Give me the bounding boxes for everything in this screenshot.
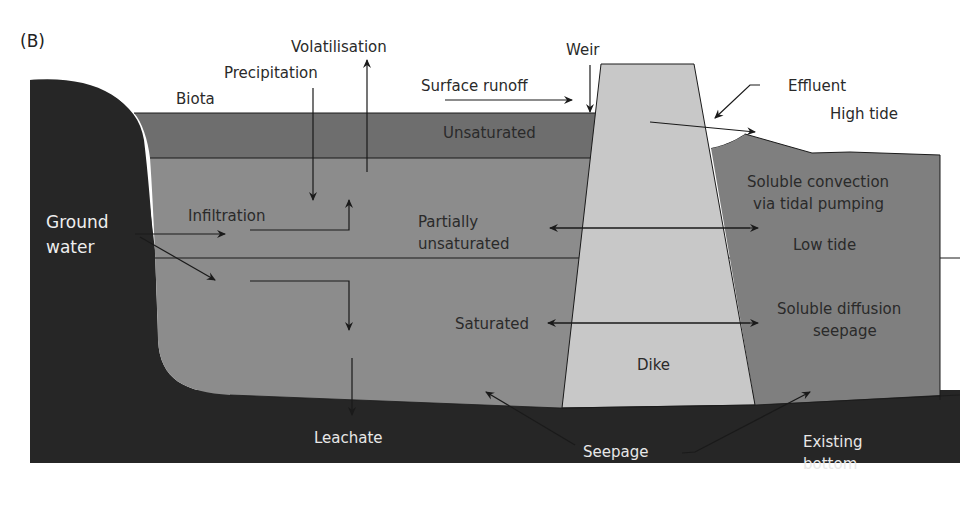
label-ground-water-1: Ground <box>46 212 109 232</box>
label-volatilisation: Volatilisation <box>291 38 387 56</box>
label-existing-bottom-2: bottom <box>803 455 857 473</box>
label-precipitation: Precipitation <box>224 64 318 82</box>
label-infiltration: Infiltration <box>188 207 266 225</box>
label-soluble-diffusion-2: seepage <box>813 322 877 340</box>
label-high-tide: High tide <box>830 105 898 123</box>
label-ground-water-2: water <box>46 237 94 257</box>
label-effluent: Effluent <box>788 77 846 95</box>
label-existing-bottom-1: Existing <box>803 433 862 451</box>
panel-label: (B) <box>20 31 45 51</box>
pond-saturated-zone <box>150 158 597 408</box>
label-soluble-convection-2: via tidal pumping <box>753 195 884 213</box>
label-low-tide: Low tide <box>793 236 856 254</box>
label-unsaturated: Unsaturated <box>443 124 536 142</box>
label-partially-1: Partially <box>418 213 478 231</box>
label-surface-runoff: Surface runoff <box>421 77 528 95</box>
label-seepage: Seepage <box>583 443 648 461</box>
label-weir: Weir <box>566 41 600 59</box>
label-dike: Dike <box>637 356 670 374</box>
label-leachate: Leachate <box>314 429 383 447</box>
label-soluble-diffusion-1: Soluble diffusion <box>777 300 901 318</box>
diagram-canvas: (B) <box>0 0 962 527</box>
containment-pond-diagram: (B) <box>0 0 962 527</box>
label-partially-2: unsaturated <box>418 235 509 253</box>
label-soluble-convection-1: Soluble convection <box>747 173 889 191</box>
label-biota: Biota <box>176 90 215 108</box>
label-saturated: Saturated <box>455 315 529 333</box>
